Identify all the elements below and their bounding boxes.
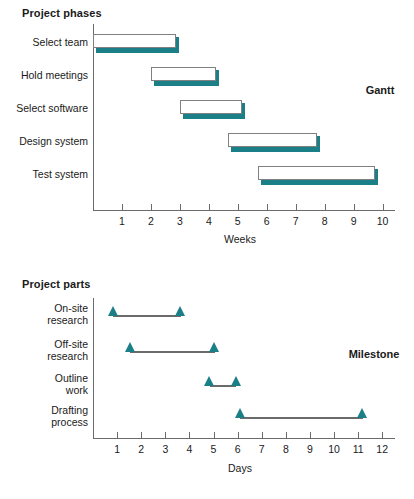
milestone-x-tick-label: 4 (177, 443, 201, 455)
gantt-row-label: Select team (0, 36, 88, 48)
gantt-x-tick-label: 7 (284, 215, 308, 227)
milestone-marker-end (357, 408, 367, 418)
gantt-x-tick-label: 3 (168, 215, 192, 227)
milestone-x-tick (334, 432, 335, 438)
milestone-marker-start (108, 306, 118, 316)
gantt-x-tick (180, 204, 181, 210)
milestone-x-tick-label: 10 (322, 443, 346, 455)
gantt-x-tick-label: 9 (342, 215, 366, 227)
gantt-x-tick-label: 6 (255, 215, 279, 227)
milestone-marker-start (125, 342, 135, 352)
milestone-row-label: On-siteresearch (0, 302, 88, 326)
gantt-row-label: Design system (0, 135, 88, 147)
milestone-x-tick-label: 11 (346, 443, 370, 455)
milestone-marker-end (231, 376, 241, 386)
gantt-bar (93, 34, 176, 48)
gantt-x-tick (354, 204, 355, 210)
milestone-row-label-line2: research (0, 314, 88, 326)
milestone-connector-line (130, 351, 214, 353)
milestone-row-label-line1: On-site (0, 302, 88, 314)
milestone-row-label: Outlinework (0, 372, 88, 396)
milestone-x-tick-label: 9 (298, 443, 322, 455)
gantt-x-tick-label: 8 (313, 215, 337, 227)
gantt-chart: Project phases Gantt 12345678910Select t… (0, 0, 414, 250)
gantt-x-tick (296, 204, 297, 210)
gantt-bar (228, 133, 318, 147)
milestone-marker-end (209, 342, 219, 352)
gantt-x-tick-label: 2 (139, 215, 163, 227)
milestone-chart: Project parts Milestone 123456789101112O… (0, 250, 414, 499)
gantt-x-tick (267, 204, 268, 210)
milestone-x-tick (262, 432, 263, 438)
milestone-x-tick (189, 432, 190, 438)
milestone-row-label-line1: Outline (0, 372, 88, 384)
gantt-x-tick-label: 4 (197, 215, 221, 227)
gantt-x-axis-title: Weeks (180, 233, 300, 245)
milestone-y-axis (93, 298, 94, 438)
milestone-x-tick (286, 432, 287, 438)
milestone-marker-end (175, 306, 185, 316)
milestone-corner-label: Milestone (336, 348, 412, 360)
gantt-x-tick (209, 204, 210, 210)
gantt-x-axis (93, 210, 395, 211)
milestone-x-tick (238, 432, 239, 438)
gantt-row-label: Select software (0, 102, 88, 114)
milestone-x-tick-label: 2 (129, 443, 153, 455)
milestone-x-tick (382, 432, 383, 438)
milestone-connector-line (240, 417, 363, 419)
milestone-row-label-line1: Drafting (0, 404, 88, 416)
gantt-x-tick-label: 5 (226, 215, 250, 227)
gantt-x-tick-label: 10 (371, 215, 395, 227)
milestone-x-tick (165, 432, 166, 438)
gantt-x-tick (383, 204, 384, 210)
milestone-row-label-line2: process (0, 416, 88, 428)
milestone-x-tick-label: 5 (202, 443, 226, 455)
gantt-x-tick-label: 1 (110, 215, 134, 227)
milestone-row-label-line2: work (0, 384, 88, 396)
gantt-bar (180, 100, 242, 114)
milestone-x-tick (214, 432, 215, 438)
milestone-chart-title: Project parts (22, 278, 91, 290)
milestone-x-tick-label: 8 (274, 443, 298, 455)
milestone-x-tick-label: 3 (153, 443, 177, 455)
milestone-row-label-line1: Off-site (0, 338, 88, 350)
gantt-y-axis (93, 24, 94, 210)
milestone-x-tick (310, 432, 311, 438)
gantt-x-tick (122, 204, 123, 210)
milestone-row-label: Off-siteresearch (0, 338, 88, 362)
milestone-x-tick (358, 432, 359, 438)
gantt-bar (258, 166, 375, 180)
gantt-x-tick (238, 204, 239, 210)
milestone-x-tick-label: 1 (105, 443, 129, 455)
milestone-x-tick (141, 432, 142, 438)
milestone-marker-start (235, 408, 245, 418)
milestone-marker-start (204, 376, 214, 386)
gantt-bar (151, 67, 216, 81)
gantt-x-tick (151, 204, 152, 210)
gantt-chart-title: Project phases (22, 7, 102, 19)
gantt-x-tick (325, 204, 326, 210)
gantt-row-label: Test system (0, 168, 88, 180)
milestone-connector-line (113, 315, 180, 317)
milestone-x-tick-label: 7 (250, 443, 274, 455)
milestone-x-tick (117, 432, 118, 438)
milestone-x-axis (93, 438, 395, 439)
milestone-row-label-line2: research (0, 350, 88, 362)
gantt-corner-label: Gantt (350, 84, 410, 96)
milestone-row-label: Draftingprocess (0, 404, 88, 428)
milestone-x-axis-title: Days (180, 462, 300, 474)
milestone-x-tick-label: 12 (370, 443, 394, 455)
milestone-x-tick-label: 6 (226, 443, 250, 455)
gantt-row-label: Hold meetings (0, 69, 88, 81)
